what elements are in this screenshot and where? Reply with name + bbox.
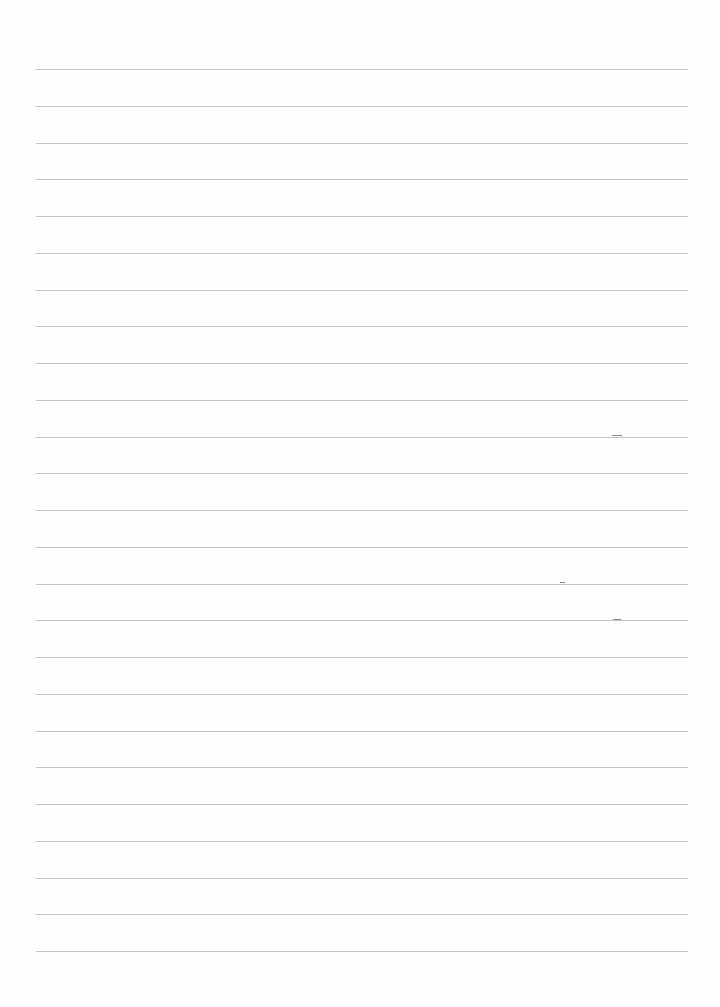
ruled-line [36, 69, 688, 70]
ruled-line [36, 951, 688, 952]
ruled-line [36, 179, 688, 180]
ruled-line [36, 400, 688, 401]
ruled-line [36, 547, 688, 548]
ruled-line [36, 657, 688, 658]
ruled-line [36, 767, 688, 768]
ruled-line [36, 290, 688, 291]
ruled-line [36, 804, 688, 805]
ruled-line [36, 841, 688, 842]
pencil-mark [612, 435, 622, 436]
ruled-line [36, 584, 688, 585]
pencil-mark [613, 619, 621, 620]
ruled-line [36, 731, 688, 732]
ruled-line [36, 363, 688, 364]
ruled-line [36, 694, 688, 695]
ruled-line [36, 253, 688, 254]
ruled-line [36, 216, 688, 217]
ruled-line [36, 473, 688, 474]
ruled-line [36, 620, 688, 621]
ruled-line [36, 914, 688, 915]
pencil-mark [560, 582, 565, 583]
ruled-line [36, 143, 688, 144]
lined-paper-page [0, 0, 720, 1007]
ruled-line [36, 878, 688, 879]
ruled-line [36, 437, 688, 438]
ruled-line [36, 326, 688, 327]
ruled-line [36, 510, 688, 511]
ruled-line [36, 106, 688, 107]
